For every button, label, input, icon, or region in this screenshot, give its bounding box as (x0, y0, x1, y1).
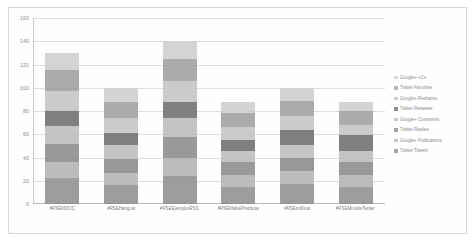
bar-segment (45, 70, 79, 91)
bar-segment (280, 130, 314, 145)
bar-segment (45, 162, 79, 178)
bar-segment (163, 137, 197, 158)
bar-segment (45, 178, 79, 204)
y-axis-tick: 80 (23, 108, 29, 114)
bar-segment (280, 158, 314, 172)
y-axis-tick: 20 (23, 178, 29, 184)
legend-label: Twitter Favorites (400, 85, 432, 90)
bar-column[interactable] (221, 18, 255, 204)
y-axis-tick: 0 (26, 201, 29, 207)
bar-segment (339, 162, 373, 175)
bar-column[interactable] (104, 18, 138, 204)
legend-item[interactable]: Twitter Replies (394, 125, 470, 136)
bar-stack (104, 88, 138, 204)
bar-column[interactable] (280, 18, 314, 204)
bar-segment (104, 133, 138, 145)
legend-label: Twitter Retweets (400, 106, 432, 111)
legend-swatch-icon (394, 86, 398, 90)
legend-swatch-icon (394, 139, 398, 143)
legend-label: Google+ Reshares (400, 96, 437, 101)
bar-segment (104, 145, 138, 159)
legend-swatch-icon (394, 118, 398, 122)
bar-series-layer (33, 18, 385, 204)
x-axis-tick-labels: #RSEMOOC#RSEHangout#RSEEjemplosRSS#RSEMa… (33, 206, 385, 220)
bar-segment (45, 144, 79, 163)
bar-segment (45, 53, 79, 70)
bar-segment (221, 162, 255, 175)
bar-segment (45, 126, 79, 143)
bar-segment (45, 111, 79, 126)
bar-segment (339, 175, 373, 187)
bar-segment (104, 173, 138, 186)
bar-segment (280, 184, 314, 204)
legend-swatch-icon (394, 149, 398, 153)
bar-segment (221, 127, 255, 140)
legend-swatch-icon (394, 76, 398, 80)
bar-column[interactable] (45, 18, 79, 204)
x-axis-tick: #RSEmiKlout (268, 206, 325, 211)
y-axis-tick: 140 (20, 38, 29, 44)
bar-segment (280, 145, 314, 158)
x-axis-tick: #RSEMOOC (34, 206, 91, 211)
bar-segment (104, 88, 138, 102)
bar-segment (339, 111, 373, 125)
bar-segment (45, 91, 79, 111)
bar-column[interactable] (163, 18, 197, 204)
chart-legend: Google+ +1'sTwitter FavoritesGoogle+ Res… (394, 72, 470, 156)
bar-segment (104, 118, 138, 133)
legend-label: Google+ Comments (400, 117, 439, 122)
y-axis-tick-labels: 020406080100120140160 (8, 18, 32, 204)
x-axis-tick: #RSEHangout (92, 206, 149, 211)
legend-label: Twitter Replies (400, 127, 429, 132)
y-axis-tick: 60 (23, 131, 29, 137)
legend-swatch-icon (394, 97, 398, 101)
bar-segment (221, 113, 255, 127)
bar-segment (163, 59, 197, 81)
legend-label: Google+ Publications (400, 138, 442, 143)
bar-stack (221, 102, 255, 204)
bar-segment (104, 185, 138, 204)
legend-label: Google+ +1's (400, 75, 426, 80)
y-axis-tick: 100 (20, 85, 29, 91)
bar-segment (104, 102, 138, 118)
legend-label: Twitter Tweets (400, 148, 428, 153)
bar-segment (339, 125, 373, 135)
bar-segment (221, 175, 255, 187)
bar-segment (339, 187, 373, 204)
bar-segment (339, 151, 373, 163)
bar-segment (221, 187, 255, 204)
bar-stack (339, 102, 373, 204)
bar-segment (163, 118, 197, 137)
legend-item[interactable]: Google+ Publications (394, 135, 470, 146)
bar-segment (221, 140, 255, 150)
bar-segment (339, 102, 373, 111)
bar-segment (280, 171, 314, 184)
bar-segment (339, 135, 373, 150)
bar-segment (280, 116, 314, 130)
legend-item[interactable]: Google+ Reshares (394, 93, 470, 104)
y-axis-tick: 160 (20, 15, 29, 21)
x-axis-tick: #RSEMalasPracticas (210, 206, 267, 211)
bar-segment (280, 101, 314, 116)
bar-stack (280, 88, 314, 204)
bar-segment (221, 102, 255, 114)
bar-segment (163, 81, 197, 102)
bar-stack (163, 41, 197, 204)
bar-stack (45, 53, 79, 204)
bar-segment (163, 176, 197, 204)
bar-segment (280, 88, 314, 101)
legend-item[interactable]: Twitter Retweets (394, 104, 470, 115)
legend-item[interactable]: Twitter Favorites (394, 83, 470, 94)
bar-segment (163, 41, 197, 58)
bar-column[interactable] (339, 18, 373, 204)
x-axis-tick: #RSEMoodleTwitter (327, 206, 384, 211)
legend-item[interactable]: Twitter Tweets (394, 146, 470, 157)
bar-segment (163, 158, 197, 177)
x-axis-tick: #RSEEjemplosRSS (151, 206, 208, 211)
legend-item[interactable]: Google+ Comments (394, 114, 470, 125)
bar-segment (221, 151, 255, 163)
bar-segment (163, 102, 197, 118)
y-axis-tick: 120 (20, 62, 29, 68)
legend-swatch-icon (394, 107, 398, 111)
legend-item[interactable]: Google+ +1's (394, 72, 470, 83)
